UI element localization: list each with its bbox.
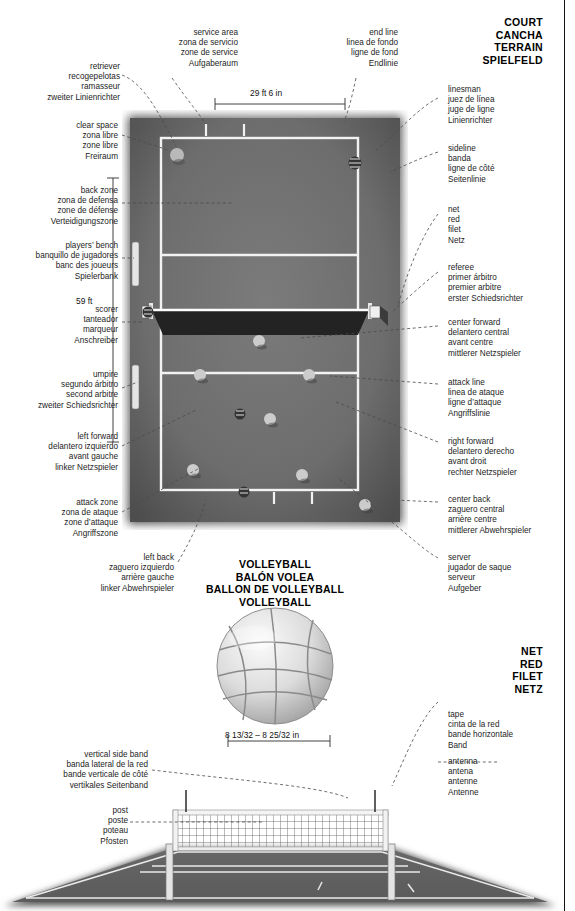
label-back-zone-en: back zone [0, 186, 118, 196]
volleyball-illustration [205, 604, 345, 729]
label-sideline-de: Seitenlinie [448, 175, 494, 185]
label-center-back-en: center back [448, 495, 531, 505]
dimension-ball-diameter: 8 13/32 – 8 25/32 in [225, 730, 299, 740]
label-scorer-fr: marqueur [0, 325, 118, 335]
label-tape: tape cinta de la red bande horizontale B… [448, 710, 513, 751]
label-center-forward-fr: avant centre [448, 338, 521, 348]
label-players-bench-es: banquillo de jugadores [0, 251, 118, 261]
label-players-bench-en: players’ bench [0, 241, 118, 251]
label-left-forward-es: delantero izquierdo [0, 442, 118, 452]
label-end-line-en: end line [270, 28, 398, 38]
label-center-back-de: mittlerer Abwehrspieler [448, 526, 531, 536]
label-retriever-de: zweiter Linienrichter [0, 93, 120, 103]
label-center-forward-es: delantero central [448, 328, 521, 338]
label-center-back-es: zaguero central [448, 505, 531, 515]
label-antenna: antenna antena antenne Antenne [448, 757, 479, 798]
label-left-forward-de: linker Netzspieler [0, 463, 118, 473]
court-title-es: CANCHA [483, 29, 543, 42]
label-server-en: server [448, 553, 511, 563]
label-left-forward-fr: avant gauche [0, 452, 118, 462]
label-scorer: scorer tanteador marqueur Anschreiber [0, 305, 118, 346]
label-right-forward-fr: avant droit [448, 457, 517, 467]
label-attack-line-fr: ligne d’attaque [448, 398, 504, 408]
net-perspective-illustration [0, 786, 560, 911]
label-antenna-en: antenna [448, 757, 479, 767]
ball-title-en: VOLLEYBALL [175, 558, 375, 571]
label-retriever-es: recogepelotas [0, 72, 120, 82]
label-linesman: linesman juez de línea juge de ligne Lin… [448, 85, 494, 126]
net-title-fr: FILET [512, 670, 543, 683]
label-net-es: red [448, 215, 465, 225]
dimension-court-width: 29 ft 6 in [250, 88, 282, 98]
label-referee-de: erster Schiedsrichter [448, 294, 523, 304]
label-sideline-es: banda [448, 154, 494, 164]
label-server-fr: serveur [448, 573, 511, 583]
label-retriever-en: retriever [0, 62, 120, 72]
label-vertical-side-band-de: vertikales Seitenband [0, 781, 148, 791]
section-title-net: NET RED FILET NETZ [512, 645, 543, 695]
label-referee: referee primer árbitro premier arbitre e… [448, 263, 523, 304]
net-title-en: NET [512, 645, 543, 658]
label-players-bench: players’ bench banquillo de jugadores ba… [0, 241, 118, 282]
label-net: net red filet Netz [448, 205, 465, 246]
label-linesman-es: juez de línea [448, 95, 494, 105]
label-center-forward-en: center forward [448, 318, 521, 328]
label-tape-en: tape [448, 710, 513, 720]
label-attack-zone-de: Angriffszone [0, 529, 118, 539]
label-umpire-es: segundo árbitro [0, 380, 118, 390]
net-title-es: RED [512, 658, 543, 671]
net-title-de: NETZ [512, 683, 543, 696]
label-post-fr: poteau [0, 826, 128, 836]
label-scorer-es: tanteador [0, 315, 118, 325]
label-left-forward: left forward delantero izquierdo avant g… [0, 432, 118, 473]
label-attack-line: attack line linea de ataque ligne d’atta… [448, 378, 504, 419]
label-service-area-de: Aufgaberaum [110, 59, 238, 69]
label-left-back-de: linker Abwehrspieler [56, 584, 174, 594]
label-vertical-side-band-fr: bande verticale de côté [0, 770, 148, 780]
label-back-zone-de: Verteidigungszone [0, 217, 118, 227]
label-attack-zone: attack zone zona de ataque zone d’attaqu… [0, 498, 118, 539]
section-title-volleyball: VOLLEYBALL BALÓN VOLEA BALLON DE VOLLEYB… [175, 558, 375, 608]
label-left-back: left back zaguero izquierdo arrière gauc… [56, 553, 174, 594]
section-title-court: COURT CANCHA TERRAIN SPIELFELD [483, 16, 543, 66]
label-tape-de: Band [448, 741, 513, 751]
label-center-back-fr: arrière centre [448, 515, 531, 525]
label-players-bench-de: Spielerbank [0, 272, 118, 282]
label-attack-zone-en: attack zone [0, 498, 118, 508]
label-scorer-en: scorer [0, 305, 118, 315]
label-right-forward: right forward delantero derecho avant dr… [448, 437, 517, 478]
label-service-area-fr: zone de service [110, 48, 238, 58]
label-antenna-de: Antenne [448, 788, 479, 798]
ball-title-es: BALÓN VOLEA [175, 571, 375, 584]
label-back-zone-fr: zone de défense [0, 206, 118, 216]
label-vertical-side-band-en: vertical side band [0, 750, 148, 760]
label-end-line-de: Endlinie [270, 59, 398, 69]
label-service-area: service area zona de servicio zone de se… [110, 28, 238, 69]
label-attack-line-es: linea de ataque [448, 388, 504, 398]
label-server-es: jugador de saque [448, 563, 511, 573]
label-antenna-fr: antenne [448, 777, 479, 787]
label-sideline-en: sideline [448, 144, 494, 154]
label-retriever-fr: ramasseur [0, 82, 120, 92]
court-title-en: COURT [483, 16, 543, 29]
label-attack-line-en: attack line [448, 378, 504, 388]
label-post-es: poste [0, 816, 128, 826]
label-attack-zone-es: zona de ataque [0, 508, 118, 518]
label-net-en: net [448, 205, 465, 215]
label-end-line-fr: ligne de fond [270, 48, 398, 58]
label-server-de: Aufgeber [448, 584, 511, 594]
label-referee-es: primer árbitro [448, 273, 523, 283]
label-clear-space-fr: zone libre [0, 141, 118, 151]
label-tape-es: cinta de la red [448, 720, 513, 730]
label-right-forward-en: right forward [448, 437, 517, 447]
label-left-back-fr: arrière gauche [56, 573, 174, 583]
label-right-forward-es: delantero derecho [448, 447, 517, 457]
label-right-forward-de: rechter Netzspieler [448, 468, 517, 478]
label-umpire-de: zweiter Schiedsrichter [0, 401, 118, 411]
label-left-forward-en: left forward [0, 432, 118, 442]
label-linesman-fr: juge de ligne [448, 105, 494, 115]
label-clear-space-es: zona libre [0, 131, 118, 141]
label-referee-en: referee [448, 263, 523, 273]
label-scorer-de: Anschreiber [0, 336, 118, 346]
label-umpire-fr: second arbitre [0, 390, 118, 400]
